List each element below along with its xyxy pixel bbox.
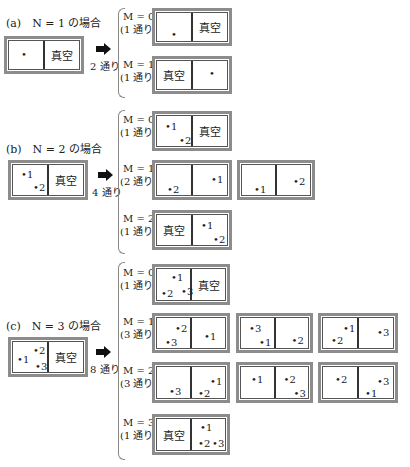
state-box: 12 3 [318,313,398,353]
state-box: 真空 123 [152,414,230,455]
state-box: 31 2 [236,313,313,353]
state-box: 1 2 [237,160,315,200]
vacuum-label: 真空 [157,67,191,83]
initial-box-b: 12 真空 [8,160,88,200]
state-box: 2 31 [318,362,398,403]
state-box: 2 1 [152,160,232,200]
particle [171,30,177,40]
state-box: 1 23 [236,362,313,403]
ways-count-c: 8 通り [90,361,120,376]
state-box: 真空 [152,8,232,46]
state-box: 123 真空 [152,264,230,305]
ways-count-a: 2 通り [90,58,120,73]
caption-c: (c) N = 3 の場合 [6,317,101,333]
initial-box-c: 123 真空 [8,337,88,377]
state-box: 23 1 [152,313,230,353]
particle-2: 2 [33,183,45,193]
particle [209,69,215,79]
state-box: 真空 12 [152,210,232,250]
state-box: 真空 [152,56,232,94]
vacuum-label: 真空 [49,172,83,188]
state-box: 3 12 [152,362,230,403]
caption-a: (a) N = 1 の場合 [6,14,101,30]
vacuum-label: 真空 [193,19,227,35]
particle-1: 1 [21,170,33,180]
state-box: 12 真空 [152,111,232,151]
initial-box-a: 真空 [4,36,84,74]
left-chamber [9,41,45,69]
particle [21,50,27,60]
caption-b: (b) N = 2 の場合 [6,140,102,156]
vacuum-label: 真空 [45,47,79,63]
right-chamber: 真空 [45,41,79,69]
